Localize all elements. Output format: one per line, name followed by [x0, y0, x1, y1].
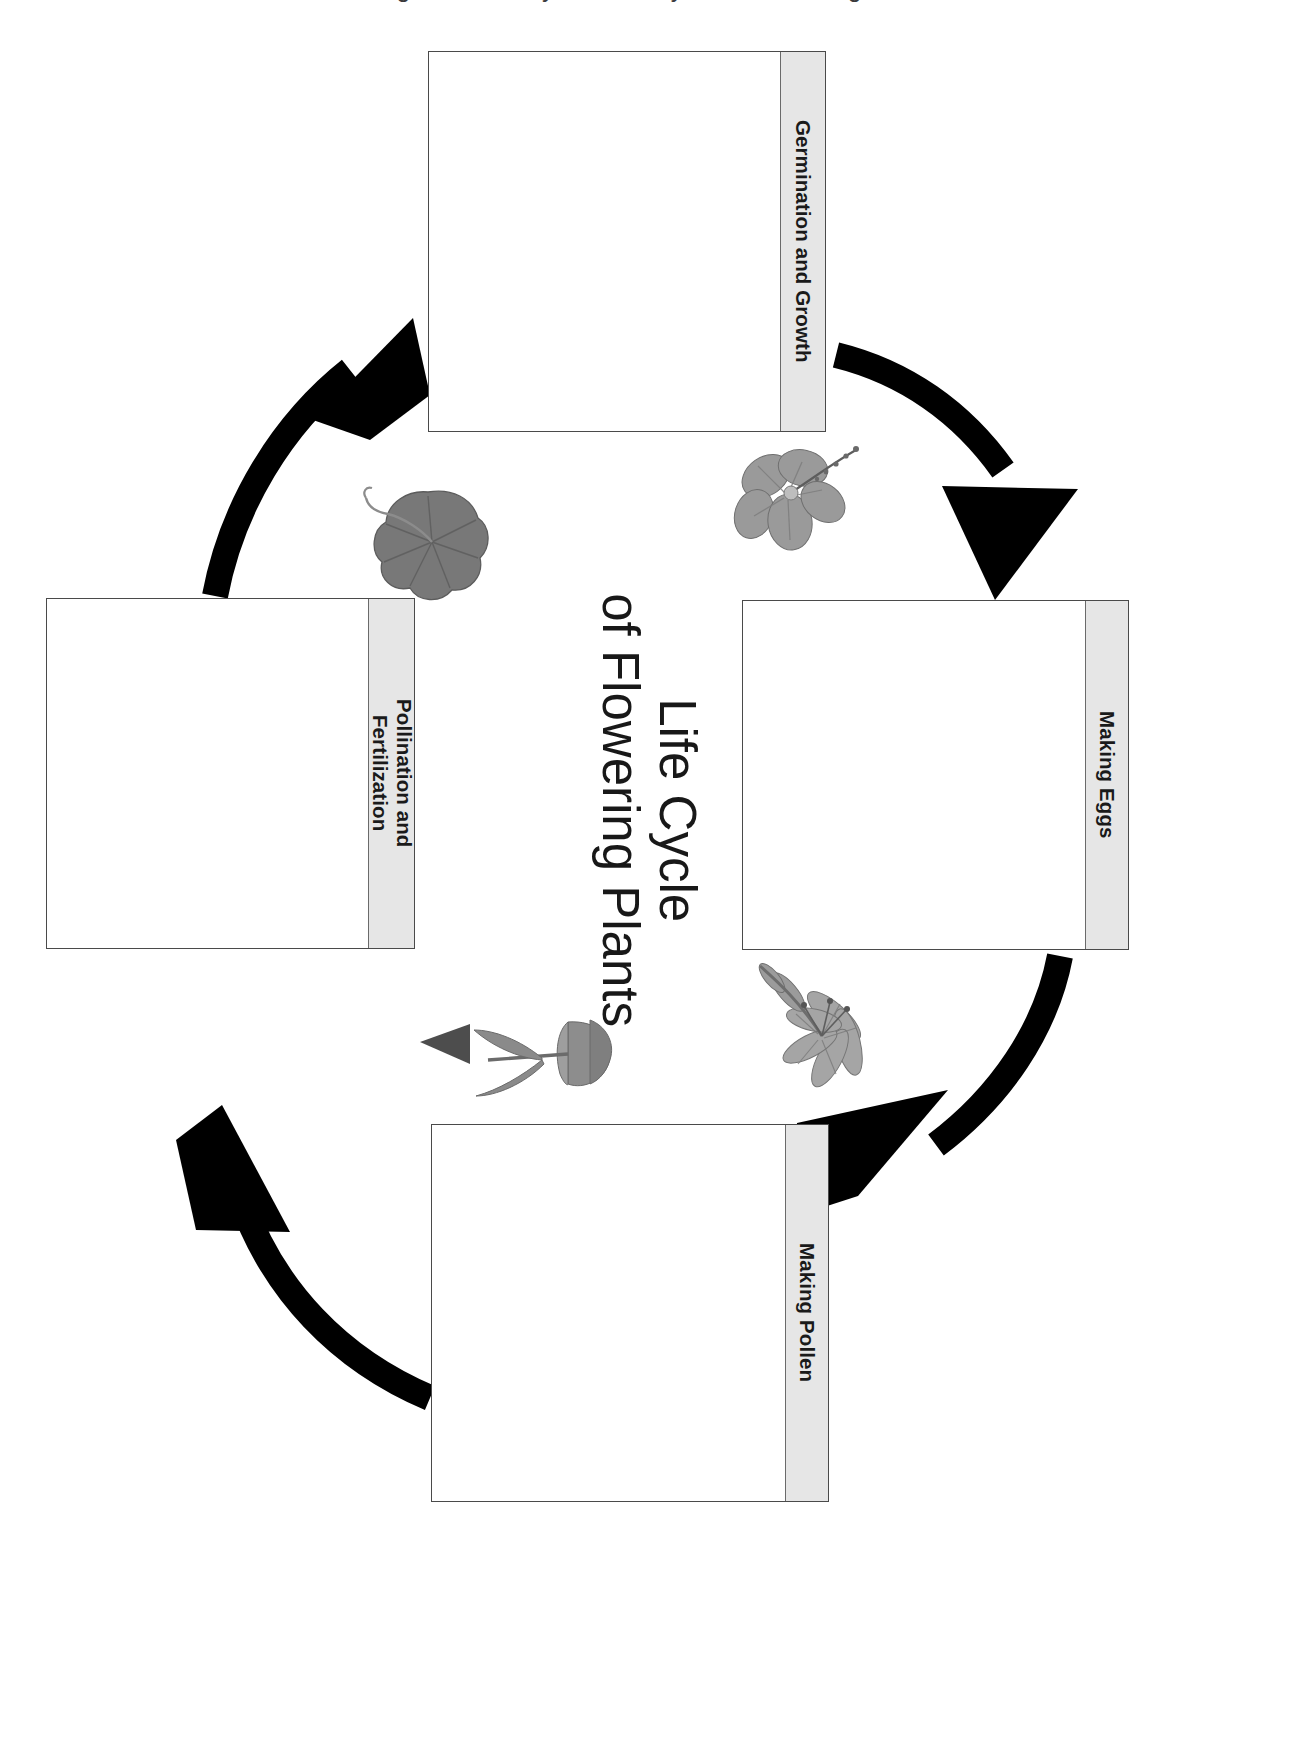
stage-label-making-pollen: Making Pollen [795, 1243, 819, 1382]
stage-label-strip-making-eggs: Making Eggs [1085, 601, 1128, 949]
stage-label-making-eggs: Making Eggs [1095, 711, 1119, 839]
stage-box-making-pollen[interactable]: Making Pollen [431, 1124, 829, 1502]
stage-box-pollination-fertilization[interactable]: Pollination and Fertilization [46, 598, 415, 949]
stage-label-strip-pollination-fertilization: Pollination and Fertilization [368, 599, 414, 948]
poster-title-line-1: Life Cycle [649, 593, 706, 1027]
hibiscus-flower-photo [718, 436, 868, 576]
stage-box-making-eggs[interactable]: Making Eggs [742, 600, 1129, 950]
poster-title-line-2: of Flowering Plants [592, 593, 649, 1027]
stage-content-making-eggs[interactable] [743, 601, 1085, 949]
tulip-arrow-accent [420, 1024, 470, 1064]
stage-box-germination[interactable]: Germination and Growth [428, 51, 826, 432]
lily-flower-photo [752, 958, 892, 1108]
arrow-pollination-to-germination [215, 318, 430, 596]
stage-label-germination: Germination and Growth [791, 120, 815, 363]
stage-label-pollination-fertilization: Pollination and Fertilization [368, 699, 414, 847]
stage-label-strip-making-pollen: Making Pollen [785, 1125, 828, 1501]
arrow-germination-to-eggs [836, 355, 1078, 600]
stage-label-strip-germination: Germination and Growth [780, 52, 825, 431]
stage-content-pollination-fertilization[interactable] [47, 599, 368, 948]
top-cutoff-text: Diagram to Study the Life Cycle of Flowe… [0, 0, 1298, 8]
stage-content-making-pollen[interactable] [432, 1125, 785, 1501]
tulip-flower-photo [472, 1000, 622, 1110]
stage-content-germination[interactable] [429, 52, 780, 431]
arrow-pollen-to-pollination [176, 1105, 430, 1398]
poster-title: Life Cycle of Flowering Plants [529, 520, 769, 1100]
arrow-eggs-to-pollen [790, 956, 1060, 1218]
poster-canvas: Diagram to Study the Life Cycle of Flowe… [0, 0, 1298, 1755]
